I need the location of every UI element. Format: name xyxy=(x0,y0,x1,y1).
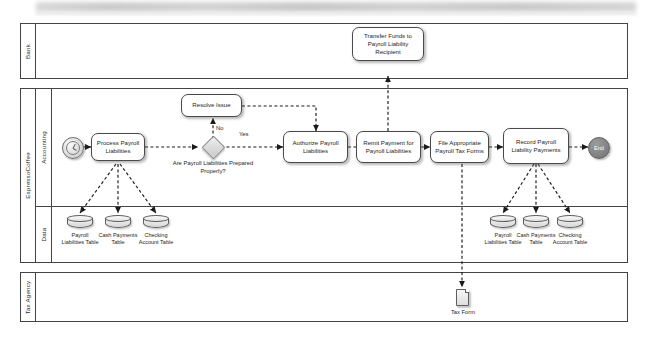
task-resolve-issue[interactable]: Resolve Issue xyxy=(181,94,242,117)
datastore-label-payroll-liabilities-left: Payroll Liabilities Table xyxy=(60,232,100,246)
pool-bank-label: Bank xyxy=(24,44,31,59)
datastore-payroll-liabilities-right[interactable] xyxy=(490,215,516,230)
pool-bank xyxy=(20,23,628,79)
pool-bank-header: Bank xyxy=(20,23,36,79)
cylinder-top xyxy=(67,215,93,222)
pool-tax-agency xyxy=(20,272,628,322)
task-authorize-payroll-liabilities[interactable]: Authorize Payroll Liabilities xyxy=(283,131,348,163)
cylinder-top xyxy=(143,215,169,222)
lane-divider xyxy=(36,206,628,207)
lane-data-header: Data xyxy=(36,206,52,263)
cylinder-top xyxy=(523,215,549,222)
datastore-label-checking-account-right: Checking Account Table xyxy=(550,232,590,246)
datastore-cash-payments-right[interactable] xyxy=(523,215,549,230)
pool-espressocoffee-label: EspressoCoffee xyxy=(24,152,31,199)
task-process-payroll-liabilities[interactable]: Process Payroll Liabilities xyxy=(91,133,145,161)
artifact-tax-form-label: Tax Form xyxy=(433,309,493,315)
lane-data-label: Data xyxy=(40,228,47,242)
lane-accounting-header: Accounting xyxy=(36,88,52,206)
task-remit-payment[interactable]: Remit Payment for Payroll Liabilities xyxy=(356,131,421,163)
end-event[interactable]: End xyxy=(588,137,610,159)
task-file-tax-forms[interactable]: File Appropriate Payroll Tax Forms xyxy=(430,131,489,163)
datastore-label-cash-payments-left: Cash Payments Table xyxy=(98,232,138,246)
datastore-payroll-liabilities-left[interactable] xyxy=(67,215,93,230)
document-fold xyxy=(465,289,469,293)
datastore-checking-account-right[interactable] xyxy=(557,215,583,230)
gateway-branch-yes-label: Yes xyxy=(239,131,248,137)
start-event-timer[interactable] xyxy=(62,137,84,159)
gateway-question-label: Are Payroll Liabilities Prepared Properl… xyxy=(168,160,258,175)
cylinder-top xyxy=(557,215,583,222)
gateway-branch-no-label: No xyxy=(216,125,223,131)
task-transfer-funds[interactable]: Transfer Funds to Payroll Liability Reci… xyxy=(352,27,424,61)
datastore-checking-account-left[interactable] xyxy=(143,215,169,230)
diagram-canvas: Bank EspressoCoffee Accounting Data Tax … xyxy=(0,0,648,338)
artifact-tax-form[interactable] xyxy=(456,289,469,306)
cylinder-top xyxy=(105,215,131,222)
task-record-payroll-payments[interactable]: Record Payroll Liability Payments xyxy=(503,128,569,164)
blurred-header-shadow xyxy=(36,12,636,15)
datastore-cash-payments-left[interactable] xyxy=(105,215,131,230)
cylinder-top xyxy=(490,215,516,222)
pool-tax-agency-header: Tax Agency xyxy=(20,272,36,322)
clock-icon xyxy=(66,141,81,156)
lane-accounting-label: Accounting xyxy=(40,131,47,164)
pool-espressocoffee-header: EspressoCoffee xyxy=(20,88,36,263)
blurred-header-band xyxy=(36,2,636,12)
datastore-label-checking-account-left: Checking Account Table xyxy=(136,232,176,246)
pool-tax-agency-label: Tax Agency xyxy=(24,280,31,314)
